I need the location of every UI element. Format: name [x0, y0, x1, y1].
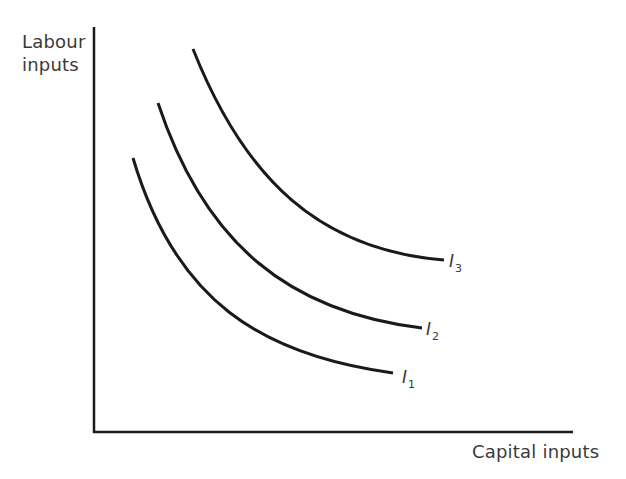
y-axis-label: Labour inputs — [22, 30, 86, 76]
curve-label-i3-subscript: 3 — [455, 262, 462, 275]
curve-label-i1: I1 — [402, 368, 415, 394]
curve-label-i1-letter: I — [402, 367, 407, 387]
curve-label-i3: I3 — [449, 252, 462, 278]
isoquant-diagram — [0, 0, 626, 479]
curve-label-i2-subscript: 2 — [432, 330, 439, 343]
y-axis-label-line1: Labour — [22, 30, 86, 53]
isoquant-curve-i2 — [158, 103, 422, 328]
curve-label-i2-letter: I — [426, 319, 431, 339]
isoquant-curve-i3 — [193, 49, 444, 260]
curve-label-i2: I2 — [426, 320, 439, 346]
y-axis-label-line2: inputs — [22, 53, 86, 76]
x-axis-label: Capital inputs — [472, 441, 599, 463]
curve-label-i3-letter: I — [449, 251, 454, 271]
curve-label-i1-subscript: 1 — [408, 378, 415, 391]
